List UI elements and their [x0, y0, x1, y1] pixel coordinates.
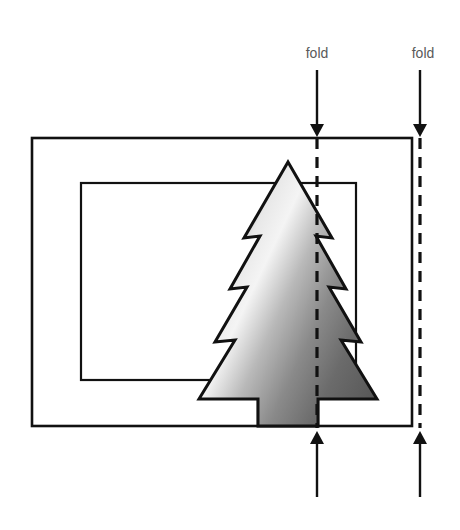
tree-foliage: [199, 162, 377, 426]
fold-arrow-top-right-head: [413, 124, 427, 137]
fold-label-right: fold: [412, 45, 435, 61]
fold-arrow-bottom-right-group: [413, 431, 427, 497]
fold-arrow-top-right-group: [413, 70, 427, 137]
fold-arrow-top-left-head: [310, 124, 324, 137]
fold-arrow-top-left-group: [310, 70, 324, 137]
fold-diagram: fold fold: [0, 0, 460, 530]
fold-arrow-bottom-left-group: [310, 431, 324, 497]
diagram-canvas: fold fold: [0, 0, 460, 530]
evergreen-tree-icon: [199, 162, 377, 426]
fold-arrow-bottom-left-head: [310, 431, 324, 444]
fold-label-left: fold: [306, 45, 329, 61]
fold-arrow-bottom-right-head: [413, 431, 427, 444]
